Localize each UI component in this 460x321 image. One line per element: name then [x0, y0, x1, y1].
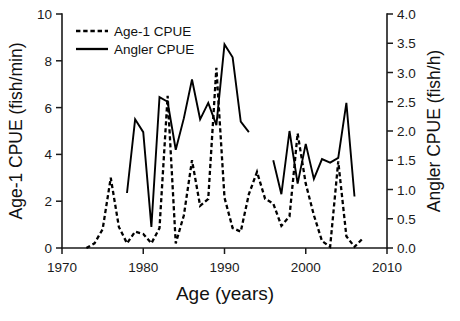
y-tick-label-left: 8 — [44, 54, 52, 69]
angler-cpue-line-segment-1 — [127, 44, 249, 227]
line-chart: 0246810 0.00.51.01.52.02.53.03.54.0 1970… — [0, 0, 460, 321]
angler-cpue-line-segment-2 — [273, 103, 354, 197]
legend-label-age1-cpue: Age-1 CPUE — [114, 24, 191, 39]
x-tick-label: 2000 — [291, 260, 321, 275]
y-tick-label-right: 3.0 — [397, 66, 416, 81]
y-tick-label-right: 2.5 — [397, 95, 416, 110]
y-tick-label-left: 0 — [44, 241, 52, 256]
legend-label-angler-cpue: Angler CPUE — [114, 42, 194, 57]
y-tick-label-right: 0.0 — [397, 241, 416, 256]
y-tick-label-left: 10 — [37, 7, 52, 22]
y-tick-label-left: 2 — [44, 194, 52, 209]
x-axis-ticks: 19701980199020002010 — [47, 248, 402, 275]
y-axis-left-title: Age-1 CPUE (fish/min) — [6, 43, 26, 220]
age1-cpue-line — [86, 68, 362, 248]
x-axis-title: Age (years) — [176, 283, 274, 304]
y-tick-label-right: 1.0 — [397, 183, 416, 198]
x-tick-label: 1990 — [209, 260, 239, 275]
figure-container: 0246810 0.00.51.01.52.02.53.03.54.0 1970… — [0, 0, 460, 321]
y-tick-label-right: 3.5 — [397, 36, 416, 51]
y-tick-label-right: 0.5 — [397, 212, 416, 227]
x-tick-label: 1970 — [47, 260, 77, 275]
y-axis-right-ticks: 0.00.51.01.52.02.53.03.54.0 — [387, 7, 416, 256]
x-tick-label: 2010 — [372, 260, 402, 275]
y-axis-right-title: Angler CPUE (fish/h) — [424, 50, 444, 212]
y-tick-label-right: 4.0 — [397, 7, 416, 22]
y-axis-left-ticks: 0246810 — [37, 7, 62, 256]
y-tick-label-left: 6 — [44, 101, 52, 116]
x-tick-label: 1980 — [128, 260, 158, 275]
y-tick-label-right: 2.0 — [397, 124, 416, 139]
series-group — [86, 44, 362, 248]
y-tick-label-left: 4 — [44, 147, 52, 162]
y-tick-label-right: 1.5 — [397, 153, 416, 168]
figure-caption — [0, 312, 460, 321]
legend: Age-1 CPUE Angler CPUE — [76, 24, 194, 57]
